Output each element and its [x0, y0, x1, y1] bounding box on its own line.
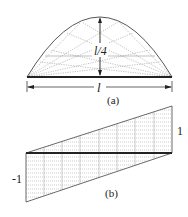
- arrowhead-right-icon: [165, 85, 172, 89]
- caption-a: (a): [107, 94, 120, 107]
- arrowhead-down-icon: [98, 70, 102, 76]
- figure-a: l/4 l (a): [27, 17, 172, 107]
- span-label: l: [97, 80, 101, 95]
- caption-b: (b): [105, 187, 118, 200]
- diagram-canvas: l/4 l (a): [0, 0, 188, 217]
- arrowhead-up-icon: [98, 17, 102, 23]
- left-value-label: -1: [12, 172, 22, 186]
- rise-label: l/4: [94, 44, 107, 58]
- hatch-grid: [0, 100, 188, 210]
- figure-b: 1 -1 (b): [0, 100, 188, 210]
- right-value-label: 1: [177, 124, 183, 138]
- arrowhead-left-icon: [27, 85, 34, 89]
